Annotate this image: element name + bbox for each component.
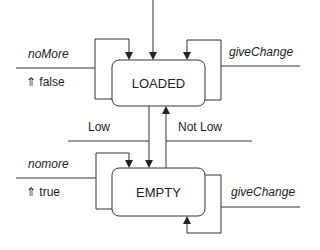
not-low-transition-label: Not Low: [178, 120, 222, 134]
state-empty-label: EMPTY: [136, 185, 181, 200]
loaded-left-event-label: noMore: [28, 47, 69, 61]
state-empty: EMPTY: [112, 168, 205, 216]
empty-left-output-label: ⇑ true: [26, 185, 60, 199]
low-transition-label: Low: [88, 120, 110, 134]
loaded-right-event-label: giveChange: [229, 45, 293, 59]
state-loaded-label: LOADED: [132, 76, 185, 91]
loaded-left-output-label: ⇑ false: [26, 75, 65, 89]
state-loaded: LOADED: [112, 60, 205, 106]
empty-right-event-label: giveChange: [231, 185, 295, 199]
empty-left-event-label: nomore: [28, 157, 69, 171]
